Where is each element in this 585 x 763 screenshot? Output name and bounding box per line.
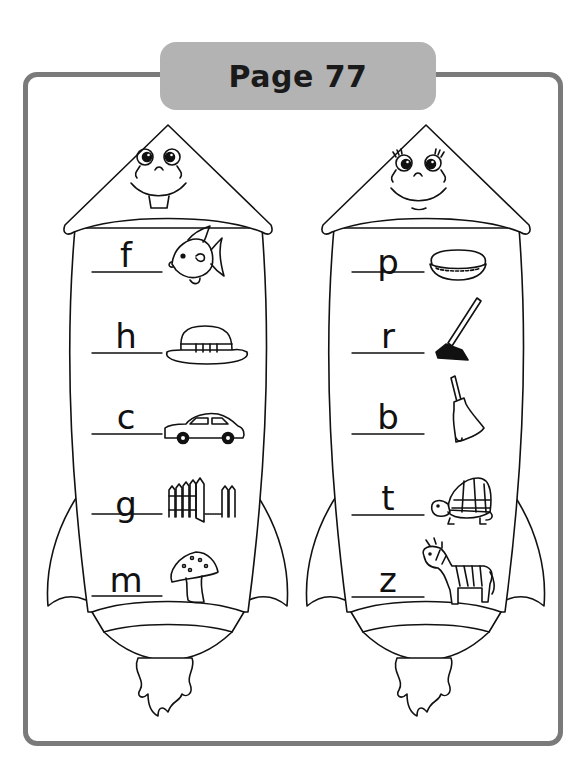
- right-rocket-flame: [395, 658, 451, 716]
- right-rocket: [306, 125, 544, 716]
- right-rocket-nose: [322, 125, 530, 234]
- left-letter-5: m: [106, 563, 146, 597]
- left-letter-2: h: [106, 319, 146, 353]
- right-letter-3: b: [368, 400, 408, 434]
- left-rocket: [47, 125, 287, 716]
- left-letter-1: f: [106, 238, 146, 272]
- right-letter-1: p: [368, 245, 408, 279]
- left-rocket-bottom-band: [92, 602, 244, 633]
- left-letter-4: g: [106, 487, 146, 521]
- left-rocket-nozzle: [104, 632, 232, 660]
- right-rocket-bottom-band: [351, 602, 501, 633]
- right-letter-5: z: [368, 563, 408, 597]
- right-letter-4: t: [368, 481, 408, 515]
- left-rocket-flame: [136, 658, 192, 716]
- left-rocket-body: [70, 228, 267, 612]
- left-rocket-nose: [64, 125, 272, 234]
- left-letter-3: c: [106, 400, 146, 434]
- right-letter-2: r: [368, 319, 408, 353]
- right-rocket-nozzle: [363, 632, 489, 660]
